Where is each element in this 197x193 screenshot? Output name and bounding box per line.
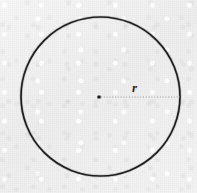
geometry-figure-canvas: r [0,0,197,193]
radius-label: r [132,81,137,94]
center-point-dot [97,95,100,98]
circle-diagram-svg [0,0,197,193]
